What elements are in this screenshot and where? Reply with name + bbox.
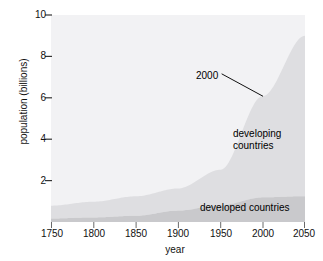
- y-tick-10: 10: [16, 10, 46, 20]
- y-tick-2: 2: [16, 176, 46, 186]
- clipped-footer-text: [214, 247, 322, 256]
- annotation-developing-line2: countries: [233, 140, 281, 152]
- x-tick-1850: 1850: [114, 228, 158, 239]
- x-tick-2000: 2000: [241, 228, 285, 239]
- population-area-chart: 10 8 6 4 2 1750 1800 1850 1900 1950 2000…: [0, 0, 323, 261]
- x-tick-2050: 2050: [282, 228, 323, 239]
- annotation-developing-line1: developing: [233, 128, 281, 140]
- x-tick-1800: 1800: [72, 228, 116, 239]
- y-axis-ticks: [45, 15, 52, 181]
- annotation-year-2000: 2000: [196, 70, 218, 82]
- y-axis-title: population (billions): [18, 32, 29, 172]
- annotation-developed-countries: developed countries: [200, 202, 290, 214]
- x-tick-1900: 1900: [156, 228, 200, 239]
- y-tick-label: 2: [16, 176, 46, 186]
- y-tick-label: 10: [16, 10, 46, 20]
- annotation-developing-countries: developing countries: [233, 128, 281, 152]
- x-tick-1750: 1750: [30, 228, 74, 239]
- x-tick-1950: 1950: [199, 228, 243, 239]
